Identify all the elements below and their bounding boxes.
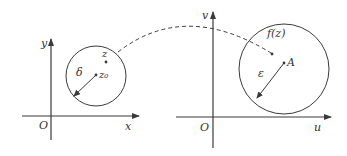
z-label: z bbox=[101, 48, 108, 59]
complex-mapping-diagram: O x y z₀ δ z O u v A ε f(z) bbox=[0, 0, 347, 156]
x-axis-label: x bbox=[125, 120, 132, 133]
z0-label: z₀ bbox=[98, 69, 108, 80]
u-axis-label: u bbox=[314, 121, 321, 134]
y-axis-label: y bbox=[40, 37, 48, 50]
mapping-dashed-arc bbox=[118, 26, 271, 53]
origin-label: O bbox=[39, 119, 48, 132]
delta-label: δ bbox=[76, 66, 83, 79]
fz-label: f(z) bbox=[266, 27, 285, 40]
w-plane: O u v A ε f(z) bbox=[176, 9, 331, 148]
z-plane: O x y z₀ δ z bbox=[22, 37, 139, 140]
v-axis-label: v bbox=[202, 9, 209, 22]
origin-label: O bbox=[200, 121, 209, 134]
epsilon-label: ε bbox=[258, 67, 264, 80]
point-z bbox=[105, 61, 108, 64]
point-fz bbox=[271, 53, 274, 56]
A-label: A bbox=[286, 56, 295, 69]
